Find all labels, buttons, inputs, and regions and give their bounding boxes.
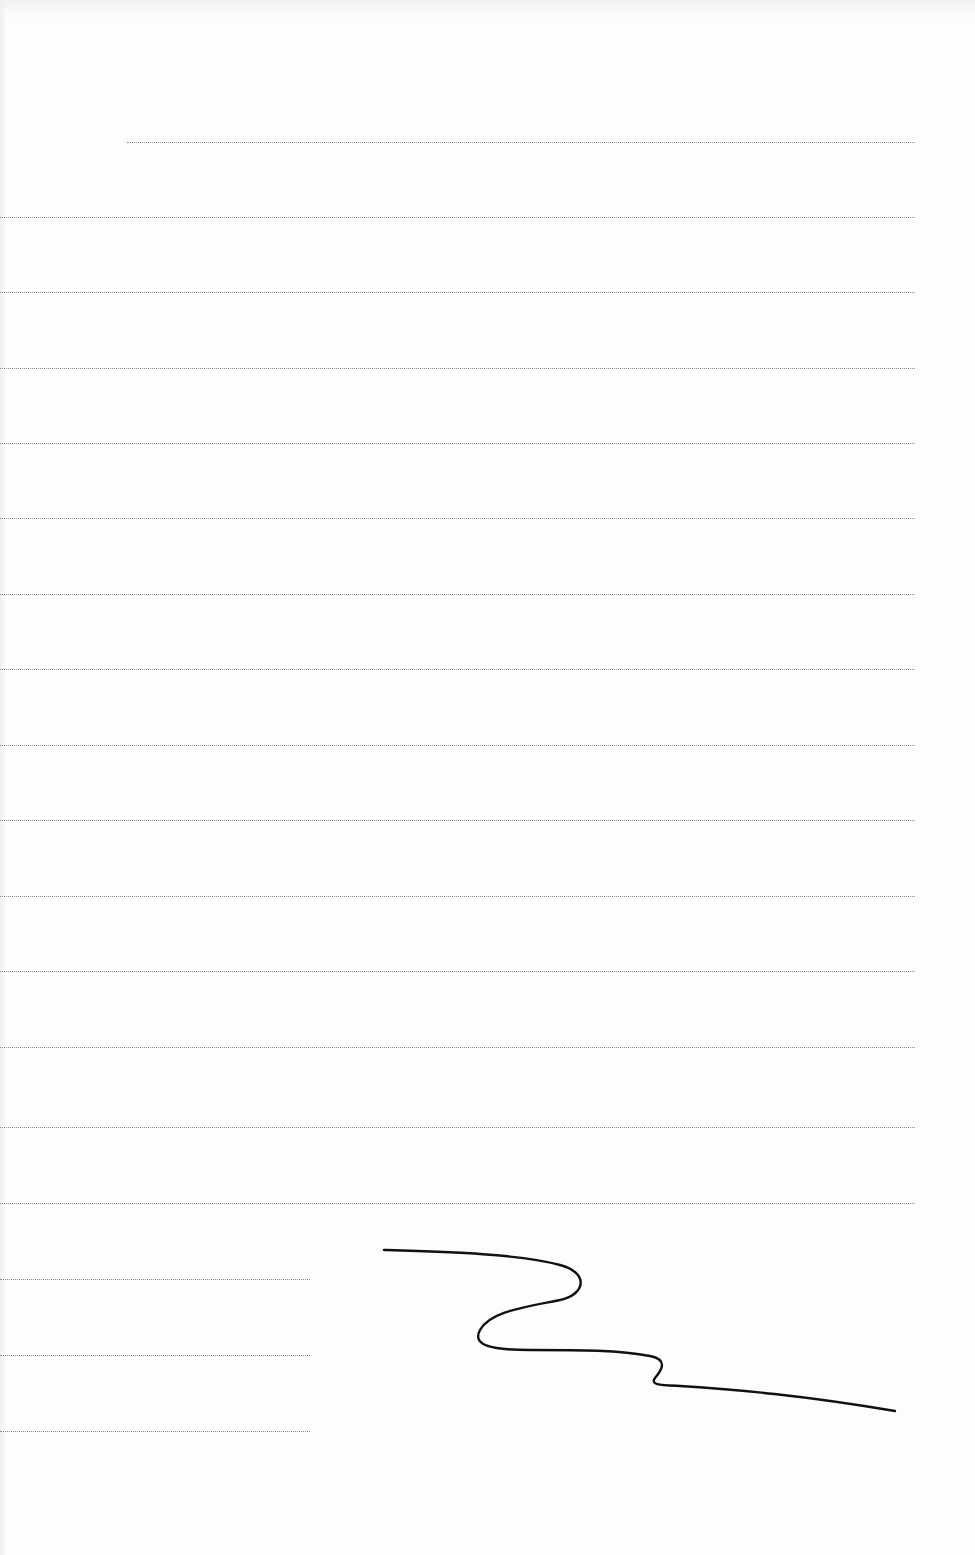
body-rule: [0, 1047, 915, 1048]
body-rule: [0, 1203, 915, 1204]
body-rule: [0, 745, 915, 746]
header-rule: [127, 142, 915, 143]
body-rule: [0, 217, 915, 218]
body-rule: [0, 971, 915, 972]
body-rule: [0, 594, 915, 595]
body-rule: [0, 518, 915, 519]
body-rule: [0, 896, 915, 897]
body-rule: [0, 443, 915, 444]
document-page: [0, 0, 975, 1555]
signature-line-rule: [0, 1279, 310, 1280]
signature-line-rule: [0, 1431, 310, 1432]
signature-stroke: [384, 1250, 895, 1411]
scan-edge-shadow: [0, 0, 6, 1555]
signature: [0, 0, 975, 1555]
body-rule: [0, 820, 915, 821]
body-rule: [0, 669, 915, 670]
body-rule: [0, 1127, 915, 1128]
body-rule: [0, 368, 915, 369]
body-rule: [0, 292, 915, 293]
signature-line-rule: [0, 1355, 310, 1356]
